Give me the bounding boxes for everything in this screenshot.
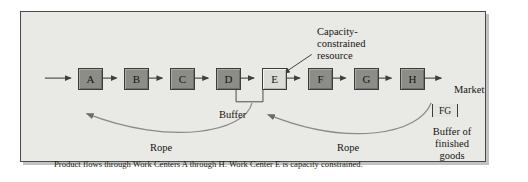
finished-goods-buffer-label: Buffer of finished goods — [425, 126, 479, 161]
work-center-h-label: H — [409, 74, 417, 85]
finished-goods-box: FG — [432, 104, 458, 117]
buffer-label: Buffer — [219, 109, 246, 121]
work-center-f[interactable]: F — [308, 68, 333, 90]
work-center-h[interactable]: H — [400, 68, 425, 90]
buffer-bracket — [236, 89, 263, 102]
work-center-c-label: C — [179, 74, 186, 85]
rope-right-label: Rope — [337, 142, 359, 154]
drum-buffer-rope-diagram: A B C D E F G H Capacity-constrained res… — [0, 0, 528, 182]
finished-goods-box-label: FG — [439, 106, 451, 116]
market-label: Market — [454, 84, 484, 96]
work-center-g-label: G — [363, 74, 371, 85]
work-center-a[interactable]: A — [78, 68, 103, 90]
work-center-e[interactable]: E — [262, 68, 287, 90]
work-center-c[interactable]: C — [170, 68, 195, 90]
work-center-d[interactable]: D — [216, 68, 241, 90]
diagram-frame: A B C D E F G H Capacity-constrained res… — [20, 11, 486, 162]
rope-right-curve — [268, 103, 431, 134]
work-center-g[interactable]: G — [354, 68, 379, 90]
work-center-a-label: A — [87, 74, 95, 85]
work-center-f-label: F — [317, 74, 323, 85]
work-center-b[interactable]: B — [124, 68, 149, 90]
work-center-b-label: B — [133, 74, 140, 85]
figure-caption: Product flows through Work Centers A thr… — [54, 159, 363, 169]
rope-left-label: Rope — [150, 142, 172, 154]
capacity-constrained-label: Capacity-constrained resource — [317, 26, 391, 61]
work-center-e-label: E — [271, 74, 278, 85]
work-center-d-label: D — [225, 74, 233, 85]
